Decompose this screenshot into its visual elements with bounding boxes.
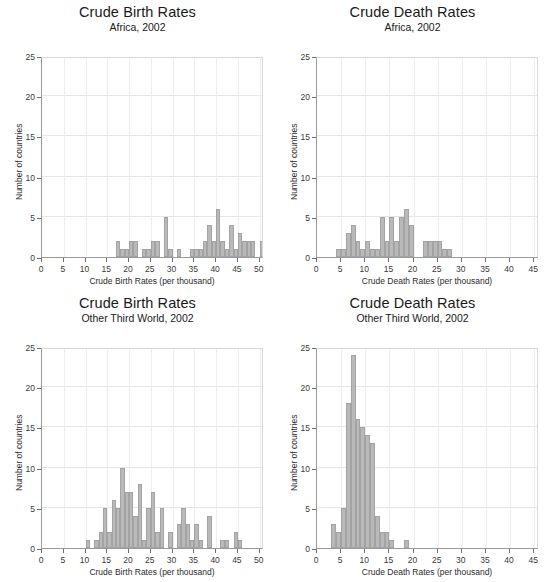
- x-axis-tick: [364, 549, 365, 553]
- x-axis-tick: [106, 549, 107, 553]
- x-axis-title: Crude Death Rates (per thousand): [316, 567, 538, 577]
- chart-panel-crude-death-rates-africa: Crude Death RatesAfrica, 200205101520250…: [275, 0, 550, 291]
- x-axis-tick: [215, 549, 216, 553]
- y-axis-tick: [312, 428, 316, 429]
- histogram-bar: [238, 540, 242, 548]
- x-axis-tick: [509, 549, 510, 553]
- x-axis-tick-label: 45: [528, 264, 537, 274]
- x-axis-tick-label: 30: [456, 264, 465, 274]
- x-axis-title: Crude Death Rates (per thousand): [316, 276, 538, 286]
- x-axis-tick-label: 10: [80, 264, 89, 274]
- gridline-vertical: [260, 349, 261, 548]
- y-axis-title: Number of countries: [289, 414, 299, 491]
- gridline-vertical: [129, 58, 130, 257]
- y-axis-title: Number of countries: [14, 123, 24, 200]
- histogram-bar: [155, 241, 159, 257]
- gridline-vertical: [486, 349, 487, 548]
- histogram-bar: [160, 508, 164, 548]
- x-axis-tick-label: 30: [456, 555, 465, 565]
- histogram-bar: [138, 484, 142, 548]
- x-axis-tick: [215, 258, 216, 262]
- gridline-horizontal: [42, 426, 262, 427]
- x-axis-tick: [364, 258, 365, 262]
- x-axis-tick: [340, 258, 341, 262]
- gridline-vertical: [438, 58, 439, 257]
- x-axis-tick: [437, 258, 438, 262]
- histogram-bar: [389, 540, 394, 548]
- x-axis-tick-label: 5: [338, 555, 343, 565]
- chart-grid: Crude Birth RatesAfrica, 200205101520250…: [0, 0, 550, 582]
- y-axis-tick-label: 20: [0, 92, 35, 102]
- y-axis-tick: [312, 178, 316, 179]
- plot-area: [41, 57, 263, 258]
- y-axis-tick: [37, 137, 41, 138]
- y-axis-tick: [312, 388, 316, 389]
- x-axis-tick: [128, 549, 129, 553]
- histogram-bar: [404, 540, 409, 548]
- y-axis-tick-label: 0: [275, 544, 310, 554]
- y-axis-tick: [37, 57, 41, 58]
- gridline-vertical: [260, 58, 261, 257]
- gridline-horizontal: [42, 176, 262, 177]
- x-axis-tick: [388, 549, 389, 553]
- y-axis-tick-label: 5: [275, 213, 310, 223]
- x-axis-tick: [259, 258, 260, 262]
- y-axis-tick-label: 25: [275, 52, 310, 62]
- x-axis-tick-label: 10: [360, 264, 369, 274]
- chart-panel-crude-birth-rates-africa: Crude Birth RatesAfrica, 200205101520250…: [0, 0, 275, 291]
- x-axis-tick: [85, 258, 86, 262]
- y-axis-tick-label: 5: [0, 213, 35, 223]
- gridline-vertical: [107, 58, 108, 257]
- gridline-vertical: [216, 349, 217, 548]
- x-axis-tick-label: 40: [504, 555, 513, 565]
- x-axis-tick-label: 0: [39, 264, 44, 274]
- gridline-vertical: [64, 349, 65, 548]
- gridline-vertical: [238, 58, 239, 257]
- x-axis-tick-label: 15: [102, 555, 111, 565]
- x-axis-tick: [63, 258, 64, 262]
- x-axis-tick-label: 30: [167, 264, 176, 274]
- x-axis-tick-label: 5: [60, 555, 65, 565]
- y-axis-tick-label: 25: [0, 343, 35, 353]
- y-axis-title: Number of countries: [14, 414, 24, 491]
- gridline-horizontal: [42, 467, 262, 468]
- x-axis-tick-label: 15: [384, 264, 393, 274]
- x-axis-tick: [388, 258, 389, 262]
- gridline-horizontal: [317, 216, 537, 217]
- x-axis-tick-label: 5: [60, 264, 65, 274]
- histogram-bar: [207, 516, 211, 548]
- x-axis-tick-label: 0: [314, 264, 319, 274]
- x-axis-tick: [259, 549, 260, 553]
- x-axis-tick-label: 20: [123, 555, 132, 565]
- y-axis-title: Number of countries: [289, 123, 299, 200]
- x-axis-tick-label: 20: [408, 264, 417, 274]
- plot-area: [41, 348, 263, 549]
- x-axis-tick: [340, 549, 341, 553]
- gridline-vertical: [194, 349, 195, 548]
- histogram-bar: [168, 532, 172, 548]
- x-axis-tick-label: 0: [314, 555, 319, 565]
- x-axis-tick-label: 25: [432, 264, 441, 274]
- gridline-vertical: [389, 349, 390, 548]
- gridline-vertical: [86, 349, 87, 548]
- x-axis-tick: [63, 549, 64, 553]
- y-axis-tick-label: 0: [0, 253, 35, 263]
- x-axis-tick-label: 40: [210, 264, 219, 274]
- gridline-vertical: [151, 58, 152, 257]
- y-axis-tick-label: 25: [275, 343, 310, 353]
- x-axis-tick: [485, 258, 486, 262]
- histogram-bar: [86, 540, 90, 548]
- gridline-vertical: [438, 349, 439, 548]
- histogram-bar: [133, 241, 137, 257]
- y-axis-tick-label: 20: [275, 92, 310, 102]
- histogram-bar: [225, 540, 229, 548]
- x-axis-tick-label: 10: [80, 555, 89, 565]
- x-axis-tick: [461, 549, 462, 553]
- x-axis-tick-label: 35: [480, 555, 489, 565]
- plot-area: [316, 348, 538, 549]
- gridline-vertical: [534, 58, 535, 257]
- gridline-horizontal: [42, 386, 262, 387]
- gridline-horizontal: [317, 95, 537, 96]
- gridline-vertical: [86, 58, 87, 257]
- x-axis-tick: [413, 549, 414, 553]
